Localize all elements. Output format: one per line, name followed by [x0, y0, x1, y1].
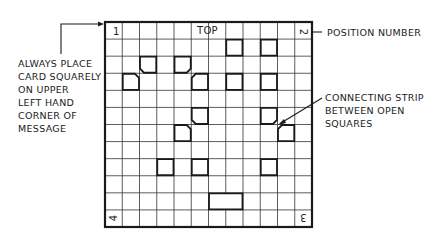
- open-square: [192, 108, 208, 124]
- open-square: [226, 74, 242, 90]
- open-square: [140, 57, 156, 73]
- open-square: [157, 159, 173, 175]
- position-number-2: 2: [298, 29, 308, 35]
- position-number-3: 3: [300, 212, 306, 222]
- placement-instruction-line: ALWAYS PLACE: [18, 57, 101, 70]
- placement-instruction-line: ON UPPER: [18, 83, 101, 96]
- connecting-strip-line: SQUARES: [325, 117, 424, 130]
- open-square: [123, 74, 139, 90]
- connecting-strip-label: CONNECTING STRIP BETWEEN OPEN SQUARES: [325, 91, 424, 130]
- open-square: [192, 74, 208, 90]
- position-number-label: POSITION NUMBER: [327, 26, 421, 39]
- open-square: [261, 159, 277, 175]
- connecting-strip-line: CONNECTING STRIP: [325, 91, 424, 104]
- open-square: [278, 125, 294, 141]
- open-square: [175, 125, 191, 141]
- connecting-strip-line: BETWEEN OPEN: [325, 104, 424, 117]
- placement-arrowhead-icon: [98, 22, 104, 27]
- placement-instruction-line: CORNER OF: [18, 109, 101, 122]
- placement-arrow-line: [61, 24, 100, 54]
- connecting-strip-leader: [281, 98, 322, 123]
- open-square: [192, 159, 208, 175]
- open-square: [209, 193, 243, 209]
- position-number-4: 4: [109, 215, 119, 221]
- placement-instruction-line: CARD SQUARELY: [18, 70, 101, 83]
- open-square: [261, 40, 277, 56]
- placement-instruction-line: LEFT HAND: [18, 96, 101, 109]
- open-square: [226, 40, 242, 56]
- open-square: [175, 57, 191, 73]
- placement-instruction-line: MESSAGE: [18, 122, 101, 135]
- position-number-1: 1: [113, 27, 119, 37]
- placement-instruction: ALWAYS PLACE CARD SQUARELY ON UPPER LEFT…: [18, 57, 101, 135]
- open-square: [261, 74, 277, 90]
- open-square: [261, 108, 277, 124]
- top-label: TOP: [197, 24, 218, 37]
